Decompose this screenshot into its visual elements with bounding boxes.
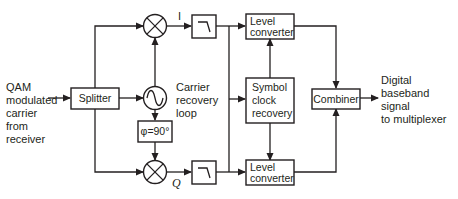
svg-text:recovery: recovery bbox=[176, 94, 219, 106]
wire-splitter-to-i-mixer bbox=[95, 26, 143, 88]
wire-splitter-to-q-mixer bbox=[95, 109, 143, 172]
svg-text:recovery: recovery bbox=[252, 107, 293, 119]
svg-text:from: from bbox=[6, 120, 28, 132]
svg-text:φ=90°: φ=90° bbox=[141, 125, 170, 137]
combiner-block: Combiner bbox=[312, 89, 360, 109]
svg-text:Carrier: Carrier bbox=[176, 81, 210, 93]
svg-text:Combiner: Combiner bbox=[313, 93, 359, 105]
svg-text:converter: converter bbox=[250, 26, 294, 38]
svg-text:Digital: Digital bbox=[381, 74, 412, 86]
svg-text:QAM: QAM bbox=[6, 81, 31, 93]
svg-text:receiver: receiver bbox=[6, 133, 45, 145]
output-label: Digital baseband signal to multiplexer bbox=[381, 74, 447, 125]
svg-text:Splitter: Splitter bbox=[79, 92, 112, 104]
svg-text:Symbol: Symbol bbox=[252, 81, 287, 93]
level-converter-bottom-block: Level converter bbox=[246, 160, 294, 185]
phase-shift-block: φ=90° bbox=[138, 121, 172, 142]
svg-text:clock: clock bbox=[252, 94, 277, 106]
splitter-block: Splitter bbox=[71, 88, 119, 109]
i-mixer-icon bbox=[144, 15, 167, 38]
wire-level-top-to-combiner bbox=[294, 26, 336, 88]
qam-demodulator-diagram: QAM modulated carrier from receiver Spli… bbox=[0, 0, 458, 199]
level-converter-top-block: Level converter bbox=[246, 14, 294, 39]
svg-text:modulated: modulated bbox=[6, 94, 57, 106]
oscillator-icon bbox=[144, 87, 167, 110]
carrier-recovery-label: Carrier recovery loop bbox=[176, 81, 219, 119]
svg-text:loop: loop bbox=[176, 107, 197, 119]
q-lowpass-filter-icon bbox=[192, 161, 216, 184]
input-label: QAM modulated carrier from receiver bbox=[6, 81, 57, 145]
i-lowpass-filter-icon bbox=[192, 15, 216, 38]
wire-level-bottom-to-combiner bbox=[294, 109, 336, 172]
svg-text:carrier: carrier bbox=[6, 107, 38, 119]
i-branch-label: I bbox=[178, 10, 181, 22]
q-branch-label: Q bbox=[172, 176, 181, 190]
q-mixer-icon bbox=[144, 161, 167, 184]
svg-text:baseband: baseband bbox=[381, 87, 429, 99]
svg-text:converter: converter bbox=[250, 172, 294, 184]
svg-text:signal: signal bbox=[381, 100, 410, 112]
symbol-clock-recovery-block: Symbol clock recovery bbox=[246, 78, 294, 123]
svg-text:to multiplexer: to multiplexer bbox=[381, 113, 447, 125]
